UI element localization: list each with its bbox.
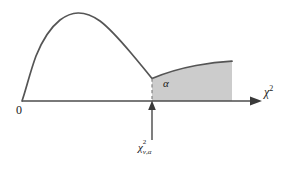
chi-square-distribution-figure: 0 α χ2 χ2ν,α: [0, 0, 288, 169]
x-axis-label: χ2: [264, 85, 273, 98]
alpha-area-label: α: [163, 78, 169, 89]
critical-value-label: χ2ν,α: [138, 142, 143, 153]
critical-value-subscript: ν,α: [143, 149, 152, 156]
x-axis-label-exponent: 2: [269, 84, 273, 93]
critical-value-arrowhead: [148, 101, 156, 111]
critical-value-exponent: 2: [143, 139, 147, 146]
x-axis-arrowhead: [250, 97, 262, 106]
origin-label: 0: [16, 104, 22, 116]
